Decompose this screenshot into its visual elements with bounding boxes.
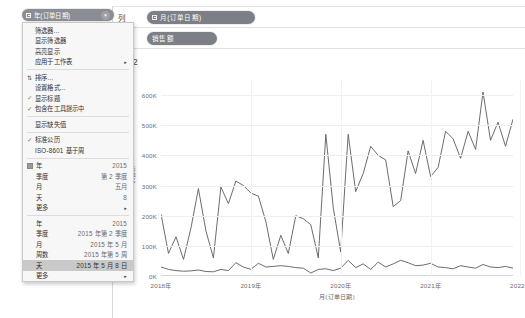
x-axis-title: 月(订单日期) [161,292,513,301]
menu-item-应用于工作表[interactable]: 应用于工作表▸ [23,57,133,68]
gridline-horizontal [161,186,513,187]
y-axis-tick-label: 400K [142,152,157,159]
menu-separator [27,132,129,133]
y-axis-tick-label: 200K [142,212,157,219]
gridline-horizontal [161,216,513,217]
chevron-down-icon[interactable]: ▾ [101,11,110,20]
menu-item-显示标题[interactable]: ✓显示标题 [23,93,133,104]
menu-item-label: 季度 [36,229,74,238]
menu-item-季度[interactable]: 季度第 2 季度 [23,171,133,182]
menu-separator [27,158,129,159]
menu-item-label: 年 [36,161,108,170]
checkmark-icon: ✓ [27,95,35,102]
menu-item-label: 天 [36,261,72,270]
gridline-vertical [520,80,521,276]
menu-item-ISO-8601 基于周[interactable]: ISO-8601 基于周 [23,145,133,156]
menu-item-label: 月 [36,182,111,191]
line-series-销售额 [161,92,513,259]
tableau-worksheet-screen: 列 月(订单日期) 行 销售额 8-2 销售额 0K100K200K300K40… [0,0,525,318]
menu-item-value: 第 2 季度 [97,172,127,181]
rows-shelf[interactable]: 行 销售额 [113,28,525,49]
menu-item-季度[interactable]: 季度2015 年第 2 季度 [23,229,133,240]
menu-item-label: ISO-8601 基于周 [35,146,127,155]
line-series-利润 [161,260,513,273]
menu-item-年[interactable]: 年2015 [23,218,133,229]
menu-item-label: 设置格式... [35,83,127,92]
columns-pill-label: 月(订单日期) [160,12,201,22]
gridline-horizontal [161,246,513,247]
menu-separator [27,215,129,216]
expand-plus-icon[interactable] [152,15,157,20]
x-axis-tick-label: 2019年 [240,281,261,290]
menu-item-value: 8 [119,194,127,201]
menu-item-更多[interactable]: 更多▸ [23,203,133,214]
y-axis-tick-label: 100K [142,242,157,249]
y-axis-tick-label: 0K [149,273,157,280]
menu-item-label: 筛选器... [35,26,127,35]
menu-item-label: 高亮显示 [35,47,127,56]
x-axis-tick-label: 2022年 [510,281,525,290]
menu-item-显示缺失值[interactable]: 显示缺失值 [23,119,133,130]
menu-separator [27,69,129,70]
submenu-arrow-icon: ▸ [121,205,127,211]
gridline-vertical [341,80,342,276]
menu-item-label: 排序... [35,73,127,82]
chart-container: 销售额 0K100K200K300K400K500K600K2018年2019年… [121,76,517,314]
menu-item-value: 2015 年 5 月 8 日 [72,261,127,270]
menu-item-周数[interactable]: 周数2015 年第 5 周 [23,250,133,261]
rows-pill-label: 销售额 [152,33,174,43]
submenu-arrow-icon: ▸ [121,273,127,279]
menu-item-月[interactable]: 月2015 年 5 月 [23,239,133,250]
expand-plus-icon[interactable] [26,13,31,18]
menu-item-年[interactable]: 年2015 [23,161,133,172]
menu-item-label: 显示标题 [35,94,127,103]
menu-item-更多[interactable]: 更多▸ [23,271,133,282]
menu-separator [27,116,129,117]
columns-shelf-label: 列 [113,12,147,23]
checkmark-icon: ✓ [27,106,35,113]
shelf-area: 列 月(订单日期) 行 销售额 [112,6,525,50]
view-pane: 8-2 销售额 0K100K200K300K400K500K600K2018年2… [112,50,525,318]
menu-item-标准公历[interactable]: ✓标准公历 [23,135,133,146]
menu-item-高亮显示[interactable]: 高亮显示 [23,46,133,57]
menu-item-label: 周数 [36,250,80,259]
field-pill-order-date-year[interactable]: 年(订单日期) ▾ [22,9,114,21]
menu-item-value: 五月 [111,182,127,191]
menu-item-label: 应用于工作表 [35,57,121,66]
plot-area[interactable]: 0K100K200K300K400K500K600K2018年2019年2020… [161,80,513,276]
gridline-vertical [431,80,432,276]
checkmark-icon: ✓ [27,137,35,144]
x-axis-tick-label: 2020年 [330,281,351,290]
menu-item-排序...[interactable]: ⇅排序... [23,72,133,83]
menu-item-设置格式...[interactable]: 设置格式... [23,83,133,94]
menu-item-天[interactable]: 天2015 年 5 月 8 日 [23,260,133,271]
field-context-menu[interactable]: 筛选器...显示筛选器高亮显示应用于工作表▸⇅排序...设置格式...✓显示标题… [22,22,134,282]
menu-item-label: 包含在工具提示中 [35,104,127,113]
menu-item-value: 2015 年第 5 周 [80,250,127,259]
menu-item-value: 2015 年第 2 季度 [74,229,127,238]
menu-item-包含在工具提示中[interactable]: ✓包含在工具提示中 [23,104,133,115]
menu-item-label: 更多 [36,271,121,280]
menu-item-label: 显示筛选器 [35,36,127,45]
menu-item-label: 季度 [36,172,97,181]
columns-shelf[interactable]: 列 月(订单日期) [113,7,525,28]
menu-item-筛选器...[interactable]: 筛选器... [23,25,133,36]
rows-pill-sales[interactable]: 销售额 [147,32,217,45]
menu-item-label: 天 [36,193,119,202]
menu-item-天[interactable]: 天8 [23,192,133,203]
radio-selected-icon[interactable] [27,163,33,169]
x-axis-tick-label: 2018年 [151,281,172,290]
menu-item-label: 更多 [36,203,121,212]
gridline-vertical [251,80,252,276]
y-axis-tick-label: 300K [142,182,157,189]
gridline-horizontal [161,95,513,96]
columns-pill-order-date-month[interactable]: 月(订单日期) [147,11,255,24]
menu-item-label: 月 [36,240,86,249]
y-axis-tick-label: 500K [142,122,157,129]
menu-item-显示筛选器[interactable]: 显示筛选器 [23,36,133,47]
menu-item-label: 标准公历 [35,135,127,144]
menu-item-月[interactable]: 月五月 [23,182,133,193]
menu-item-label: 显示缺失值 [35,120,127,129]
menu-item-value: 2015 年 5 月 [86,240,127,249]
field-pill-label: 年(订单日期) [34,11,101,20]
